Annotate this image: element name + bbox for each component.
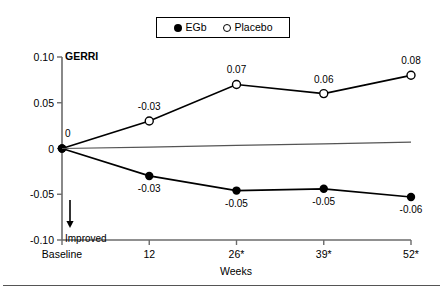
point-label-egb-4: -0.06 (400, 204, 423, 215)
y-tick-label-2: 0 (8, 143, 54, 155)
x-tick-label-4: 52* (403, 248, 419, 260)
legend-entry-placebo: Placebo (223, 22, 273, 33)
point-label-egb-3: -0.05 (312, 196, 335, 207)
origin-value-label: 0 (65, 128, 71, 139)
series-line-reference (62, 142, 411, 148)
legend-label-egb: EGb (186, 22, 207, 33)
x-tick-label-2: 26* (229, 248, 245, 260)
x-tick-label-3: 39* (316, 248, 332, 260)
filled-circle-icon (174, 24, 182, 32)
point-label-placebo-1: -0.03 (138, 101, 161, 112)
arrow-down-icon-head (66, 221, 73, 228)
improved-annotation-label: Improved (65, 233, 107, 244)
plot-title: GERRI (65, 50, 98, 62)
chart-legend: EGb Placebo (156, 17, 290, 38)
x-tick-label-0: Baseline (42, 248, 82, 260)
point-label-egb-1: -0.03 (138, 183, 161, 194)
y-tick-label-0: 0.10 (8, 51, 54, 63)
data-point-egb-2 (232, 186, 240, 194)
legend-entry-egb: EGb (174, 22, 207, 33)
x-tick-label-1: 12 (143, 248, 155, 260)
open-circle-icon (223, 24, 231, 32)
y-tick-label-3: -0.05 (8, 188, 54, 200)
legend-label-placebo: Placebo (235, 22, 273, 33)
point-label-placebo-3: 0.06 (314, 74, 333, 85)
data-point-egb-1 (145, 172, 153, 180)
data-point-egb-4 (407, 193, 415, 201)
data-point-egb-3 (320, 185, 328, 193)
data-point-placebo-2 (233, 80, 241, 88)
point-label-egb-2: -0.05 (225, 198, 248, 209)
point-label-placebo-4: 0.08 (401, 55, 420, 66)
point-label-placebo-2: 0.07 (227, 64, 246, 75)
data-point-placebo-4 (407, 71, 415, 79)
data-point-placebo-3 (320, 90, 328, 98)
y-tick-label-1: 0.05 (8, 97, 54, 109)
chart-figure: EGb Placebo GERRI 0 Improved Weeks 0.100… (0, 0, 443, 301)
y-tick-label-4: -0.10 (8, 234, 54, 246)
bottom-divider (3, 285, 440, 286)
x-axis-title: Weeks (220, 265, 252, 277)
data-point-placebo-1 (145, 117, 153, 125)
